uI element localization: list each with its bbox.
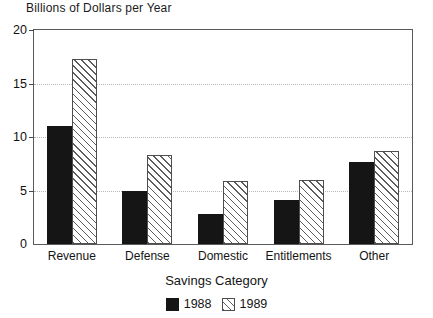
legend-entry-1989: 1989 <box>222 297 268 311</box>
x-axis-tick-label: Domestic <box>198 249 248 263</box>
x-axis-title: Savings Category <box>0 273 433 288</box>
chart-title: Billions of Dollars per Year <box>26 1 172 15</box>
y-axis-tick-mark <box>29 137 34 138</box>
bar-1989 <box>147 155 172 244</box>
bar-1988 <box>274 200 299 244</box>
bar-1988 <box>198 214 223 244</box>
bar-1988 <box>47 126 72 244</box>
y-axis-tick-label: 0 <box>20 237 27 251</box>
legend-label-1989: 1989 <box>240 297 268 311</box>
y-axis-tick-label: 10 <box>13 130 27 144</box>
y-axis-tick-label: 5 <box>20 184 27 198</box>
y-axis-tick-label: 15 <box>13 77 27 91</box>
legend-swatch-1988-icon <box>166 298 179 311</box>
x-axis-tick-label: Entitlements <box>266 249 332 263</box>
plot-area: 05101520RevenueDefenseDomesticEntitlemen… <box>33 29 413 245</box>
bar-group: Defense <box>122 30 172 244</box>
bar-group: Domestic <box>198 30 248 244</box>
bar-1989 <box>374 151 399 244</box>
bar-1988 <box>122 191 147 245</box>
bar-chart-figure: Billions of Dollars per Year 05101520Rev… <box>0 0 433 318</box>
bar-group: Other <box>349 30 399 244</box>
bar-1989 <box>299 180 324 244</box>
x-axis-tick-label: Revenue <box>48 249 96 263</box>
x-axis-tick-label: Defense <box>125 249 170 263</box>
y-axis-tick-mark <box>29 191 34 192</box>
y-axis-tick-label: 20 <box>13 23 27 37</box>
legend-label-1988: 1988 <box>184 297 212 311</box>
legend-entry-1988: 1988 <box>166 297 212 311</box>
bar-1988 <box>349 162 374 244</box>
bar-group: Revenue <box>47 30 97 244</box>
y-axis-tick-mark <box>29 30 34 31</box>
bar-1989 <box>72 59 97 244</box>
legend-swatch-1989-icon <box>222 298 235 311</box>
chart-legend: 1988 1989 <box>0 297 433 311</box>
y-axis-tick-mark <box>29 84 34 85</box>
x-axis-tick-label: Other <box>359 249 389 263</box>
bar-1989 <box>223 181 248 244</box>
bar-group: Entitlements <box>274 30 324 244</box>
